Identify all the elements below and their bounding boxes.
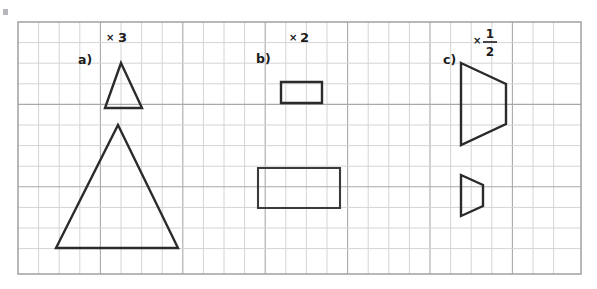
fraction-numerator: 1 xyxy=(486,27,494,41)
worksheet-svg: a) × 3 b) × 2 c) × 1 2 xyxy=(0,0,597,289)
square-grid xyxy=(18,22,581,274)
exercise-b-label: b) xyxy=(256,51,271,66)
large-rectangle xyxy=(258,168,340,208)
exercise-b-scale-factor: 2 xyxy=(300,30,309,45)
fraction-denominator: 2 xyxy=(486,45,494,59)
multiply-icon: × xyxy=(473,35,481,46)
multiply-icon: × xyxy=(106,32,114,43)
multiply-icon: × xyxy=(289,32,297,43)
worksheet-canvas: a) × 3 b) × 2 c) × 1 2 xyxy=(0,0,597,289)
grid-border xyxy=(18,22,581,274)
exercise-c-label: c) xyxy=(443,52,456,67)
exercise-a-label: a) xyxy=(78,52,92,67)
small-triangle xyxy=(105,63,142,108)
small-trapezoid xyxy=(461,175,483,216)
small-rectangle xyxy=(281,82,322,103)
exercise-c: c) × 1 2 xyxy=(443,27,506,216)
exercise-a-scale-factor: 3 xyxy=(118,30,127,45)
page-corner-mark xyxy=(3,9,8,15)
